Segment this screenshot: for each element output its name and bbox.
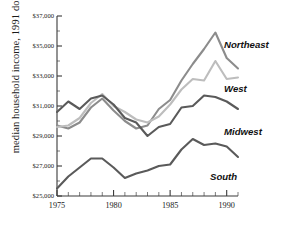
x-tick-label: 1980: [105, 201, 121, 210]
x-axis-ticks: [57, 190, 238, 196]
series-lines: [57, 33, 238, 189]
series-label-south: South: [210, 171, 237, 182]
line-chart-plot: $25,000$27,000$29,000$31,000$33,000$35,0…: [0, 0, 284, 227]
y-tick-label: $33,000: [33, 72, 55, 79]
series-label-northeast: Northeast: [224, 39, 270, 50]
series-line-northeast: [57, 33, 238, 129]
series-label-west: West: [224, 83, 248, 94]
x-tick-label: 1985: [162, 201, 178, 210]
chart-container: median household income, 1991 dollars $2…: [0, 0, 284, 227]
y-tick-label: $35,000: [33, 42, 55, 49]
y-axis-tick-labels: $25,000$27,000$29,000$31,000$33,000$35,0…: [33, 12, 55, 199]
x-tick-label: 1975: [49, 201, 65, 210]
series-label-midwest: Midwest: [224, 126, 263, 137]
x-tick-label: 1990: [219, 201, 235, 210]
x-axis-tick-labels: 1975198019851990: [49, 201, 235, 210]
y-tick-label: $37,000: [33, 12, 55, 19]
y-axis-ticks: [57, 16, 62, 196]
y-tick-label: $31,000: [33, 102, 55, 109]
y-tick-label: $27,000: [33, 162, 55, 169]
y-tick-label: $25,000: [33, 192, 55, 199]
y-tick-label: $29,000: [33, 132, 55, 139]
